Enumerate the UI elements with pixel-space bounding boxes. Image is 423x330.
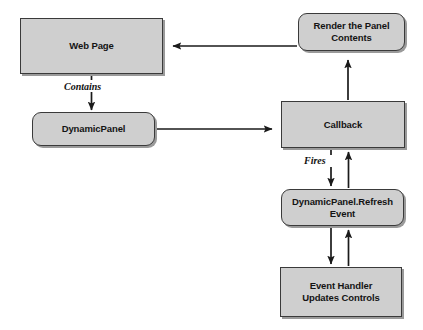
node-web-page[interactable]: Web Page [20,18,163,74]
node-web-page-label: Web Page [64,40,118,52]
node-render-panel-contents[interactable]: Render the Panel Contents [298,13,405,51]
edge-label-fires: Fires [303,155,327,166]
node-dynamic-panel-label: DynamicPanel [57,123,131,135]
node-event-handler-updates-controls[interactable]: Event Handler Updates Controls [280,267,402,317]
node-event-handler-updates-controls-label: Event Handler Updates Controls [297,280,385,304]
node-callback-label: Callback [319,119,367,131]
node-callback[interactable]: Callback [281,101,405,148]
edge-label-contains: Contains [63,81,102,92]
node-render-panel-contents-label: Render the Panel Contents [308,20,394,44]
node-dynamicpanel-refresh-event[interactable]: DynamicPanel.Refresh Event [281,189,404,226]
node-dynamicpanel-refresh-event-label: DynamicPanel.Refresh Event [287,196,398,220]
node-dynamic-panel[interactable]: DynamicPanel [32,112,155,146]
flow-diagram: Web Page DynamicPanel Render the Panel C… [0,0,423,330]
